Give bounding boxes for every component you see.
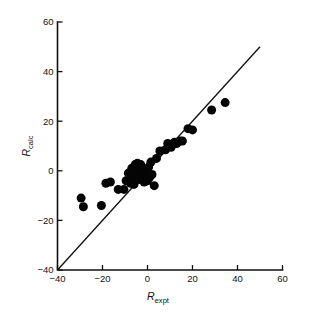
x-axis-tick-labels: −40−200204060 [49,273,287,284]
y-tick-label-20: 20 [43,116,54,127]
data-point [221,98,230,107]
x-tick-label-0: 0 [145,273,150,284]
data-point [119,185,128,194]
x-tick-label-60: 60 [277,273,288,284]
y-tick-label-60: 60 [43,16,54,27]
x-tick-label-20: 20 [187,273,198,284]
data-point [97,201,106,210]
y-tick-label-0: 0 [48,165,53,176]
data-point [178,137,187,146]
y-axis-title-group: Rcalc [20,135,35,156]
data-point [106,177,115,186]
y-tick-label--40: −40 [37,264,53,275]
plot-canvas: −40−200204060 −40−200204060 Rexpt Rcalc [0,0,317,315]
data-point [79,202,88,211]
data-points-group [77,98,230,211]
y-tick-label-40: 40 [43,66,54,77]
data-point [188,125,197,134]
data-point [207,106,216,115]
x-tick-label-40: 40 [232,273,243,284]
data-point [148,170,157,179]
y-tick-label--20: −20 [37,215,53,226]
data-point [77,194,86,203]
x-axis-title-group: Rexpt [147,290,170,305]
x-axis-title: Rexpt [147,290,170,305]
scatter-plot-figure: −40−200204060 −40−200204060 Rexpt Rcalc [0,0,317,315]
data-point [150,181,159,190]
x-tick-label--20: −20 [94,273,110,284]
y-axis-tick-labels: −40−200204060 [37,16,53,275]
y-axis-title: Rcalc [20,135,35,156]
